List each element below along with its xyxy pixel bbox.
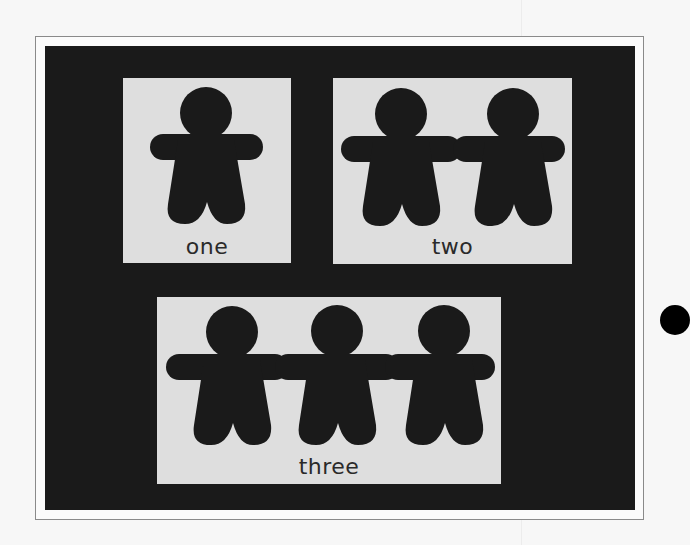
card-label-three: three <box>157 456 501 478</box>
card-one: one <box>123 78 291 263</box>
gingerbread-figure-icon <box>453 88 565 226</box>
gingerbread-figure-icon <box>275 305 399 445</box>
gingerbread-figure-icon <box>341 88 461 226</box>
card-two: two <box>333 78 572 264</box>
card-label-one: one <box>123 236 291 258</box>
gingerbread-figure-icon <box>166 306 288 445</box>
gingerbread-figure-icon <box>150 87 263 224</box>
gingerbread-figure-icon <box>385 305 495 445</box>
black-dot-icon <box>660 305 690 335</box>
card-three: three <box>157 297 501 484</box>
card-label-two: two <box>333 236 572 258</box>
